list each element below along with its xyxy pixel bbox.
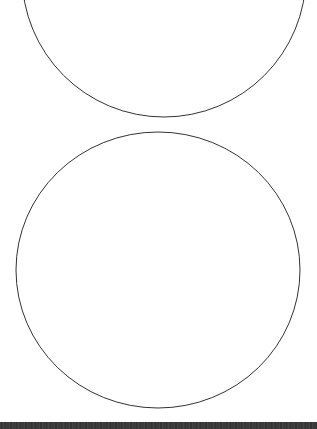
bottom-circle — [16, 132, 300, 408]
diagram-svg — [0, 0, 317, 422]
bottom-bar — [0, 422, 317, 429]
top-circle — [22, 0, 306, 117]
drawing-canvas — [0, 0, 317, 422]
